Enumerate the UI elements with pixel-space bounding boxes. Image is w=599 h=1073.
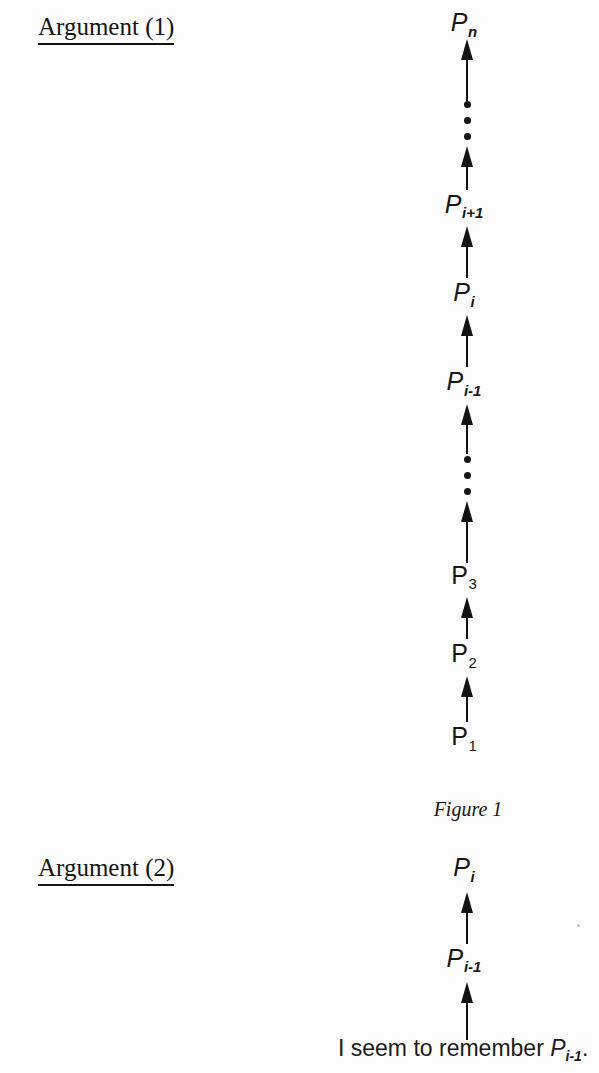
arrowhead-icon xyxy=(461,226,473,247)
arrowhead-icon xyxy=(461,597,473,618)
premise-symbol-subscript: i-1 xyxy=(566,1048,582,1064)
node-p-2: P2 xyxy=(451,641,477,670)
arrow-to-a2-p-i-minus-1 xyxy=(459,982,475,1040)
arrowhead-icon xyxy=(461,676,473,697)
arrow-to-p-3 xyxy=(459,597,475,639)
argument-1-heading-text: Argument (1) xyxy=(38,14,174,45)
node-p-i-minus-1-base: P xyxy=(447,367,464,395)
node-p-i-plus-1: Pi+1 xyxy=(445,192,484,221)
node-a2-p-i-minus-1-subscript: i-1 xyxy=(464,958,482,975)
node-a2-p-i: Pi xyxy=(453,855,475,884)
node-p-i-subscript: i xyxy=(471,293,475,310)
arrowhead-icon xyxy=(461,892,473,913)
argument-2-heading-text: Argument (2) xyxy=(38,855,174,886)
ellipsis-dot xyxy=(464,488,471,495)
node-p-1-base: P xyxy=(451,722,468,750)
ellipsis-dot xyxy=(464,472,471,479)
node-a2-p-i-base: P xyxy=(453,853,470,881)
arrowhead-icon xyxy=(461,39,473,60)
node-p-2-base: P xyxy=(451,639,468,667)
node-p-i-base: P xyxy=(453,278,470,306)
node-p-n-subscript: n xyxy=(468,23,477,40)
premise-symbol: P xyxy=(550,1035,565,1061)
arrowhead-icon xyxy=(461,146,473,167)
ellipsis-dot xyxy=(464,101,471,108)
node-p-1: P1 xyxy=(451,724,477,753)
node-p-i-minus-1-subscript: i-1 xyxy=(464,382,482,399)
arrow-to-p-i xyxy=(459,315,475,367)
ellipsis-upper xyxy=(464,101,471,140)
node-a2-p-i-minus-1-base: P xyxy=(447,944,464,972)
arrowhead-icon xyxy=(461,404,473,425)
arrow-shaft xyxy=(466,166,468,190)
node-a2-p-i-minus-1: Pi-1 xyxy=(447,946,482,975)
node-p-i-plus-1-subscript: i+1 xyxy=(462,204,483,221)
scan-speck xyxy=(577,924,580,927)
node-p-i: Pi xyxy=(453,280,475,309)
node-p-n: Pn xyxy=(451,10,478,39)
arrow-shaft xyxy=(466,696,468,722)
figure-1-chain: Pn Pi+1 Pi Pi-1 xyxy=(387,10,547,753)
premise-text-before: I seem to remember xyxy=(338,1035,550,1061)
arrow-to-p-n xyxy=(459,39,475,101)
argument-1-heading: Argument (1) xyxy=(38,14,174,45)
arrow-shaft xyxy=(466,59,468,101)
figure-1-caption: Figure 1 xyxy=(408,798,528,821)
node-p-n-base: P xyxy=(451,8,468,36)
arrow-shaft xyxy=(466,424,468,454)
node-a2-p-i-subscript: i xyxy=(471,868,475,885)
node-p-1-subscript: 1 xyxy=(469,737,477,754)
node-p-3: P3 xyxy=(451,563,477,592)
premise-text-after: . xyxy=(582,1035,588,1061)
arrow-into-ellipsis-lower xyxy=(459,501,475,563)
arrow-to-p-2 xyxy=(459,676,475,722)
arrow-to-p-i-plus-1 xyxy=(459,226,475,278)
node-p-i-plus-1-base: P xyxy=(445,190,462,218)
argument-2-chain: Pi Pi-1 xyxy=(387,855,547,1040)
node-p-2-subscript: 2 xyxy=(469,654,477,671)
arrow-shaft xyxy=(466,246,468,278)
premise-statement: I seem to remember Pi-1. xyxy=(338,1036,588,1065)
ellipsis-dot xyxy=(464,117,471,124)
node-p-3-base: P xyxy=(451,561,468,589)
arrow-into-ellipsis-upper xyxy=(459,146,475,190)
arrow-shaft xyxy=(466,335,468,367)
arrow-to-p-i-minus-1 xyxy=(459,404,475,454)
node-p-3-subscript: 3 xyxy=(469,575,477,592)
argument-2-heading: Argument (2) xyxy=(38,855,174,886)
ellipsis-lower xyxy=(464,456,471,495)
page-canvas: Argument (1) Pn Pi+1 Pi Pi-1 xyxy=(0,0,599,1073)
arrow-to-a2-p-i xyxy=(459,892,475,944)
arrowhead-icon xyxy=(461,982,473,1003)
arrowhead-icon xyxy=(461,501,473,522)
arrowhead-icon xyxy=(461,315,473,336)
arrow-shaft xyxy=(466,521,468,563)
node-p-i-minus-1: Pi-1 xyxy=(447,369,482,398)
ellipsis-dot xyxy=(464,133,471,140)
arrow-shaft xyxy=(466,617,468,639)
arrow-shaft xyxy=(466,912,468,944)
ellipsis-dot xyxy=(464,456,471,463)
